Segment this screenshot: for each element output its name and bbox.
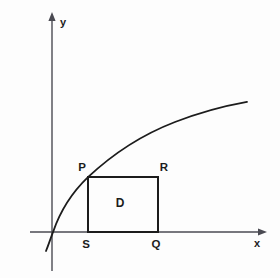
x-axis-label: x (254, 237, 261, 249)
y-axis-label: y (60, 16, 67, 28)
figure-canvas: y x D P R S Q (0, 0, 280, 278)
point-label-P: P (78, 161, 86, 173)
y-axis-arrowhead (48, 12, 55, 21)
region-label-D: D (116, 196, 125, 210)
point-label-R: R (160, 161, 169, 173)
x-axis-arrowhead (258, 228, 267, 235)
point-label-S: S (82, 238, 90, 250)
point-label-Q: Q (152, 238, 161, 250)
math-diagram: y x D P R S Q (0, 0, 280, 278)
